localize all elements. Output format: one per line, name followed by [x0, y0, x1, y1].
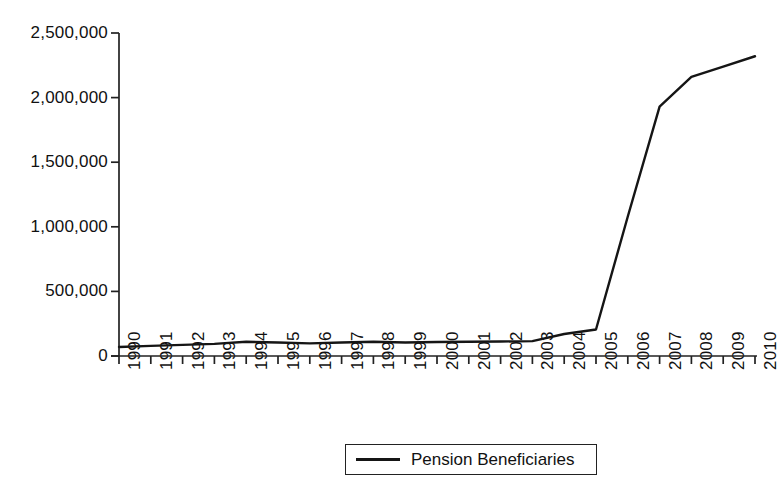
legend-item-label: Pension Beneficiaries: [411, 451, 574, 469]
x-axis-ticks: [119, 356, 755, 364]
axes: [111, 33, 757, 364]
legend: Pension Beneficiaries: [345, 444, 597, 475]
y-axis-ticks: [111, 33, 119, 356]
plot-area: [0, 0, 779, 485]
data-series-line-pension-beneficiaries: [119, 56, 755, 347]
legend-line-icon: [356, 458, 400, 461]
chart-container: 0500,0001,000,0001,500,0002,000,0002,500…: [0, 0, 779, 485]
